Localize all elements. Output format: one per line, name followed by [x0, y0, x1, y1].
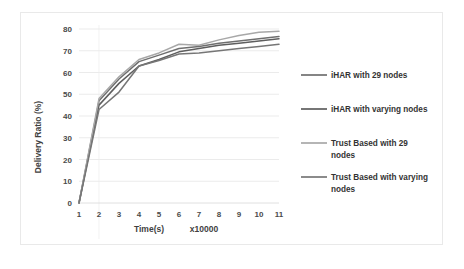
- legend-label: iHAR with 29 nodes: [331, 71, 408, 80]
- x-tick-label: 4: [137, 210, 142, 219]
- x-tick-label: 9: [237, 210, 242, 219]
- legend-label: Trust Based with 29: [331, 139, 408, 148]
- legend-label: iHAR with varying nodes: [331, 105, 428, 114]
- series-line: [79, 31, 279, 203]
- y-tick-label: 30: [63, 134, 72, 143]
- x-tick-label: 3: [117, 210, 122, 219]
- chart-plot-area: 01020304050607080 1234567891011 Delivery…: [21, 13, 444, 246]
- y-tick-label: 50: [63, 90, 72, 99]
- chart-legend: iHAR with 29 nodesiHAR with varying node…: [301, 71, 428, 194]
- x-tick-label: 11: [275, 210, 284, 219]
- y-tick-label: 70: [63, 47, 72, 56]
- x-tick-label: 1: [77, 210, 82, 219]
- y-axis-title: Delivery Ratio (%): [33, 101, 43, 173]
- series-line: [79, 39, 279, 203]
- line-chart-svg: 01020304050607080 1234567891011 Delivery…: [21, 13, 444, 246]
- x-tick-label: 8: [217, 210, 222, 219]
- series-lines-group: [79, 31, 279, 203]
- y-tick-label: 80: [63, 25, 72, 34]
- x-tick-label: 6: [177, 210, 182, 219]
- y-tick-label: 60: [63, 69, 72, 78]
- x-axis-tick-labels: 1234567891011: [77, 210, 284, 219]
- y-axis-tick-labels: 01020304050607080: [63, 25, 72, 208]
- x-axis-title-suffix: x10000: [190, 224, 219, 234]
- y-tick-label: 40: [63, 112, 72, 121]
- legend-label: nodes: [331, 185, 356, 194]
- x-tick-label: 7: [197, 210, 202, 219]
- series-line: [79, 44, 279, 203]
- x-axis-title: Time(s): [134, 224, 164, 234]
- x-tick-label: 2: [97, 210, 102, 219]
- y-tick-label: 0: [68, 199, 73, 208]
- y-tick-label: 10: [63, 177, 72, 186]
- y-tick-label: 20: [63, 156, 72, 165]
- legend-label: nodes: [331, 151, 356, 160]
- series-line: [79, 37, 279, 203]
- x-tick-label: 10: [255, 210, 264, 219]
- chart-figure: 01020304050607080 1234567891011 Delivery…: [20, 12, 443, 245]
- legend-label: Trust Based with varying: [331, 173, 428, 182]
- x-tick-label: 5: [157, 210, 162, 219]
